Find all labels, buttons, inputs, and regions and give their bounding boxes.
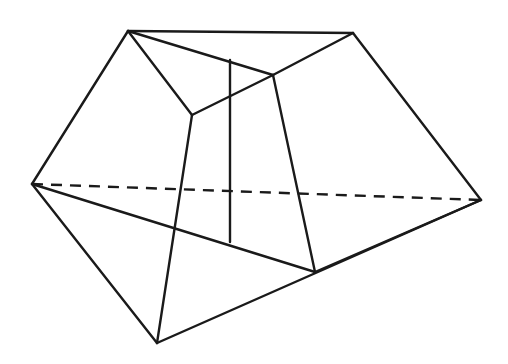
polyhedron-figure: Polyhedron wireframe line drawing [0,0,508,364]
polyhedron-svg: Polyhedron wireframe line drawing [0,0,508,364]
edge-upper-right-edge [353,33,481,200]
edge-crease-g-to-h [273,75,315,272]
edge-crease-c-to-h [32,184,315,272]
edge-crease-h-to-d [315,200,481,272]
edge-upper-left-edge [32,31,128,184]
edge-hidden-edge-c-to-d [32,184,481,200]
edge-crease-a-to-f [128,31,192,115]
edge-crease-a-to-g [128,31,273,75]
edge-crease-g-to-b [273,33,353,75]
hidden-edge-group [32,184,481,200]
edge-top-edge [128,31,353,33]
edge-lower-left-edge [32,184,157,343]
edge-crease-f-to-g [192,75,273,115]
